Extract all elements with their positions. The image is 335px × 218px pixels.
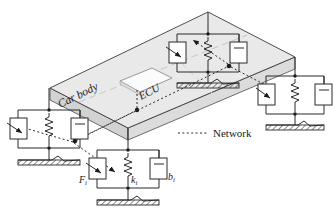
force-label: Fi (78, 174, 87, 187)
spring-coil (45, 113, 53, 146)
joint-top (293, 74, 296, 77)
spring-label: ki (131, 174, 137, 187)
damper-box (150, 158, 167, 179)
actuator-box (89, 158, 106, 179)
actuator-box (169, 42, 186, 63)
damper-box (230, 42, 247, 63)
network-node-center-right (227, 64, 232, 69)
joint-top (206, 32, 209, 35)
actuator-box (10, 118, 27, 139)
legend-network: Network (178, 127, 252, 139)
actuator-box (258, 84, 275, 105)
damper-label: bi (168, 171, 175, 184)
figure-canvas: Car body ECU (0, 0, 335, 218)
joint-bottom (126, 186, 129, 189)
joint-top (126, 148, 129, 151)
legend-network-label: Network (213, 127, 252, 139)
suspension-system-diagram: Car body ECU (0, 0, 335, 218)
damper-box (71, 118, 88, 139)
joint-bottom (293, 112, 296, 115)
joint-bottom (206, 70, 209, 73)
spring-coil (291, 79, 299, 112)
joint-top (47, 108, 50, 111)
joint-bottom (47, 146, 50, 149)
damper-box (315, 84, 332, 105)
